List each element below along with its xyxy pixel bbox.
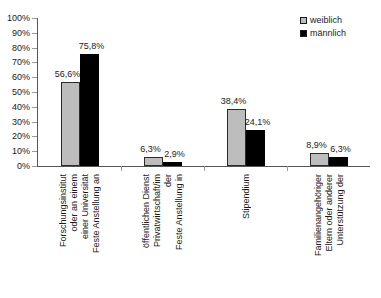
- y-axis-tick-label: 20%: [12, 131, 30, 141]
- bar-value-label: 2,9%: [164, 149, 185, 159]
- category-label-line: Unterstützung der: [334, 174, 345, 246]
- y-axis-tick-mark: [32, 62, 37, 63]
- y-axis: 0%10%20%30%40%50%60%70%80%90%100%: [0, 18, 30, 166]
- y-axis-tick-label: 100%: [7, 13, 30, 23]
- category-label-line: Forschungsinstitut: [58, 174, 69, 247]
- bar-value-label: 24,1%: [245, 117, 271, 127]
- bar-männlich-3: [246, 130, 265, 166]
- x-axis-category-label: Stipendium: [240, 174, 251, 219]
- y-axis-tick-mark: [32, 48, 37, 49]
- category-label-line: Familienangehöriger: [312, 174, 323, 256]
- y-axis-tick-label: 90%: [12, 28, 30, 38]
- y-axis-tick-mark: [32, 122, 37, 123]
- category-label-line: öffentlichen Dienst: [141, 174, 152, 248]
- y-axis-tick-mark: [32, 18, 37, 19]
- category-label-line: Privatwirtschaft/im: [152, 174, 163, 247]
- bar-group: [287, 18, 370, 166]
- y-axis-tick-label: 50%: [12, 87, 30, 97]
- bar-value-label: 56,6%: [55, 69, 81, 79]
- y-axis-tick-mark: [32, 33, 37, 34]
- x-axis-category-label: Unterstützung derEltern oder andererFami…: [312, 174, 345, 256]
- y-axis-tick-label: 40%: [12, 102, 30, 112]
- x-axis-group-separator: [204, 166, 205, 171]
- category-label-line: Stipendium: [240, 174, 251, 219]
- y-axis-tick-label: 0%: [17, 161, 30, 171]
- category-label-line: Feste Anstellung an: [91, 174, 102, 253]
- bar-group: [121, 18, 204, 166]
- y-axis-tick-label: 70%: [12, 57, 30, 67]
- bar-weiblich-4: [310, 153, 329, 166]
- y-axis-tick-mark: [32, 166, 37, 167]
- y-axis-tick-mark: [32, 92, 37, 93]
- category-label-line: Eltern oder anderer: [323, 174, 334, 252]
- y-axis-tick-mark: [32, 151, 37, 152]
- bar-value-label: 38,4%: [221, 96, 247, 106]
- x-axis-category-label: Feste Anstellung aneiner Universitätoder…: [58, 174, 102, 253]
- bar-value-label: 8,9%: [306, 140, 327, 150]
- x-axis-category-label: Feste Anstellung inderPrivatwirtschaft/i…: [141, 174, 185, 250]
- bar-value-label: 6,3%: [330, 144, 351, 154]
- category-label-line: Feste Anstellung in: [174, 174, 185, 250]
- y-axis-tick-mark: [32, 107, 37, 108]
- y-axis-tick-label: 30%: [12, 117, 30, 127]
- y-axis-tick-mark: [32, 77, 37, 78]
- bar-männlich-4: [329, 157, 348, 166]
- y-axis-tick-label: 60%: [12, 72, 30, 82]
- bar-weiblich-1: [61, 82, 80, 166]
- bar-weiblich-3: [227, 109, 246, 166]
- bar-group: [204, 18, 287, 166]
- category-label-line: oder an einem: [69, 174, 80, 232]
- bar-value-label: 75,8%: [79, 41, 105, 51]
- bar-pair: [310, 153, 348, 166]
- bar-männlich-2: [163, 162, 182, 166]
- category-label-line: der: [163, 174, 174, 187]
- y-axis-tick-label: 10%: [12, 146, 30, 156]
- y-axis-tick-label: 80%: [12, 43, 30, 53]
- x-axis-group-separator: [287, 166, 288, 171]
- bar-männlich-1: [80, 54, 99, 166]
- x-axis-group-separator: [121, 166, 122, 171]
- bar-weiblich-2: [144, 157, 163, 166]
- bar-value-label: 6,3%: [140, 144, 161, 154]
- bar-chart: weiblich männlich 0%10%20%30%40%50%60%70…: [0, 0, 381, 298]
- category-label-line: einer Universität: [80, 174, 91, 239]
- plot-area: 56,6%75,8%6,3%2,9%38,4%24,1%8,9%6,3%: [38, 18, 370, 166]
- y-axis-tick-mark: [32, 136, 37, 137]
